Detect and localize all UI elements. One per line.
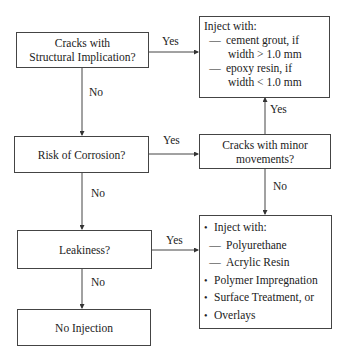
bullet-icon: •: [204, 272, 214, 290]
node-inject-bottom: • Inject with: — Polyurethane — Acrylic …: [199, 215, 332, 329]
node-text-line1: Cracks with: [55, 36, 110, 50]
bullet-item-polymer: • Polymer Impregnation: [204, 272, 327, 290]
dash-icon: —: [204, 254, 226, 272]
inject-option-epoxy: — epoxy resin, if: [204, 61, 325, 75]
dash-icon: —: [204, 33, 226, 47]
bullet-icon: •: [204, 219, 214, 237]
node-structural-implication: Cracks with Structural Implication?: [16, 32, 149, 68]
flowchart: Cracks with Structural Implication? Inje…: [0, 0, 341, 358]
node-text-line2: Structural Implication?: [29, 50, 135, 64]
edge-label-minor-yes: Yes: [270, 103, 287, 115]
dash-icon: —: [204, 237, 226, 255]
sub-item-acrylic: — Acrylic Resin: [204, 254, 327, 272]
bullet-item-overlays: • Overlays: [204, 307, 327, 325]
edge-label-structural-yes: Yes: [162, 35, 179, 47]
node-inject-top: Inject with: — cement grout, if width > …: [199, 16, 330, 98]
bullet-icon: •: [204, 289, 214, 307]
node-no-injection: No Injection: [17, 309, 151, 346]
inject-option-cement: — cement grout, if: [204, 33, 325, 47]
edge-label-corrosion-yes: Yes: [163, 134, 180, 146]
edge-label-leak-no: No: [91, 276, 105, 288]
bullet-item-inject: • Inject with:: [204, 219, 327, 237]
edge-label-corrosion-no: No: [91, 187, 105, 199]
edge-label-leak-yes: Yes: [166, 234, 183, 246]
node-leakiness: Leakiness?: [17, 230, 152, 269]
node-risk-of-corrosion: Risk of Corrosion?: [14, 136, 149, 173]
bullet-icon: •: [204, 307, 214, 325]
inject-title: Inject with:: [204, 19, 325, 33]
sub-item-polyurethane: — Polyurethane: [204, 237, 327, 255]
node-cracks-minor-movements: Cracks with minor movements?: [199, 134, 331, 169]
bullet-item-surface: • Surface Treatment, or: [204, 289, 327, 307]
edge-label-minor-no: No: [273, 180, 287, 192]
edge-label-structural-no: No: [89, 86, 103, 98]
dash-icon: —: [204, 61, 226, 75]
